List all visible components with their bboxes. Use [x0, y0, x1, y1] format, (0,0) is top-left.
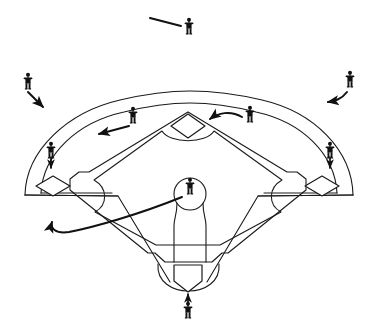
- player-pitcher[interactable]: [185, 178, 194, 195]
- baseball-field-svg: [0, 0, 375, 335]
- pitchers-lane-right: [203, 203, 206, 262]
- player-first-baseman[interactable]: [325, 142, 334, 159]
- player-catcher[interactable]: [183, 302, 192, 319]
- foul-territory-right-outer: [207, 195, 353, 282]
- foul-territory-left-outer: [25, 195, 170, 282]
- arrow-center-fielder-path: [150, 18, 181, 26]
- player-second-baseman[interactable]: [245, 106, 254, 123]
- second-base: [171, 114, 205, 138]
- player-right-fielder[interactable]: [345, 71, 354, 88]
- home-plate: [174, 265, 202, 292]
- baseball-diagram: Baseball Field Defensive Positioning Dia…: [0, 0, 375, 335]
- arrow-left-fielder-path: [28, 92, 43, 107]
- arrow-right-fielder-path: [328, 92, 347, 102]
- player-center-fielder[interactable]: [184, 18, 193, 35]
- arrow-shortstop-path: [99, 126, 129, 134]
- pitchers-lane: [174, 203, 177, 262]
- arrow-pitcher-path: [52, 197, 182, 232]
- player-left-fielder[interactable]: [23, 73, 32, 90]
- arrow-second-baseman-path: [210, 113, 242, 119]
